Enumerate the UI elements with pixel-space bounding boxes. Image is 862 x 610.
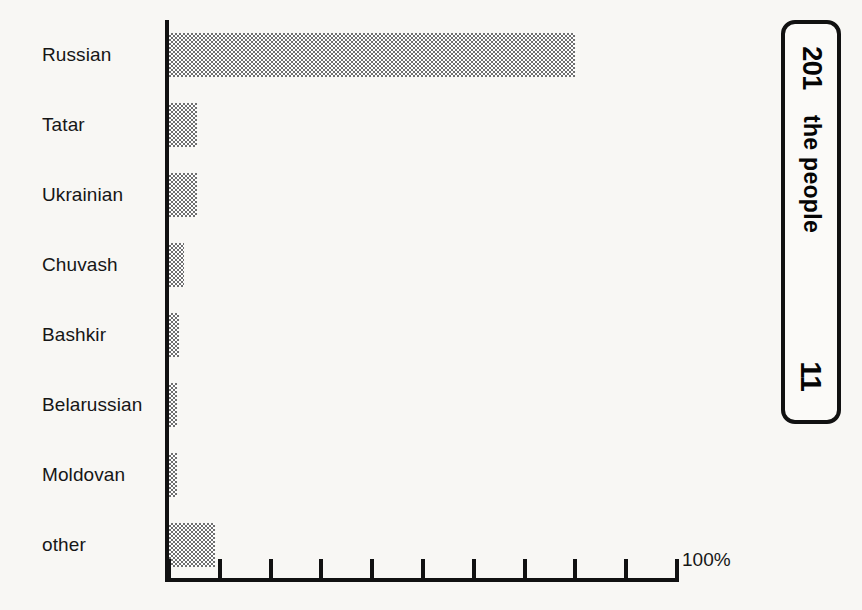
x-axis-tick (472, 559, 476, 579)
bar (169, 523, 215, 567)
side-caption-text: the people (798, 115, 825, 233)
category-label: Tatar (42, 114, 85, 136)
x-axis-tick (218, 559, 222, 579)
bar (169, 453, 177, 497)
bar (169, 173, 197, 217)
category-label: Belarussian (42, 394, 142, 416)
chart-page: RussianTatarUkrainianChuvashBashkirBelar… (0, 0, 862, 610)
side-number-top: 201 (796, 46, 827, 90)
bar (169, 243, 184, 287)
category-label: Ukrainian (42, 184, 123, 206)
category-label: Chuvash (42, 254, 118, 276)
x-axis-max-label: 100% (682, 549, 731, 571)
category-label: Russian (42, 44, 111, 66)
bar (169, 33, 575, 77)
x-axis-tick (319, 559, 323, 579)
x-axis-tick (370, 559, 374, 579)
bar (169, 103, 197, 147)
category-label: Moldovan (42, 464, 125, 486)
category-label: Bashkir (42, 324, 106, 346)
x-axis-tick (675, 559, 679, 579)
side-number-bottom: 11 (794, 361, 828, 391)
x-axis-tick (624, 559, 628, 579)
bar (169, 313, 179, 357)
bar-chart: RussianTatarUkrainianChuvashBashkirBelar… (0, 0, 760, 610)
x-axis-tick (421, 559, 425, 579)
side-caption-box: 201 the people 11 (781, 20, 841, 424)
x-axis-tick (573, 559, 577, 579)
x-axis-tick (167, 559, 171, 579)
category-label: other (42, 534, 86, 556)
bar (169, 383, 177, 427)
x-axis-tick (523, 559, 527, 579)
x-axis-tick (269, 559, 273, 579)
